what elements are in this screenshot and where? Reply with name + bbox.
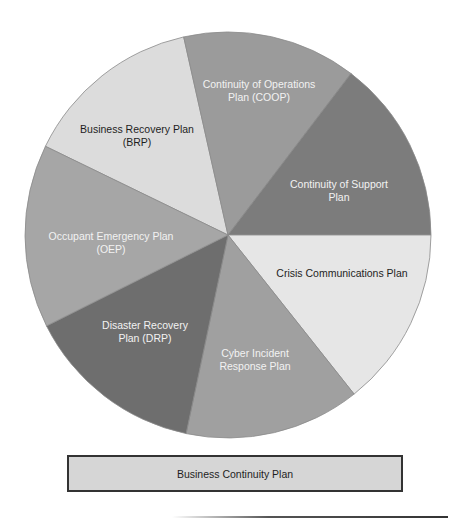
business-continuity-plan-box: Business Continuity Plan: [67, 455, 403, 492]
business-continuity-pie: Business Recovery Plan(BRP)Continuity of…: [0, 0, 451, 519]
slice-label-cyber: Cyber IncidentResponse Plan: [219, 347, 290, 372]
slice-label-crisis: Crisis Communications Plan: [276, 267, 407, 279]
business-continuity-plan-label: Business Continuity Plan: [177, 468, 293, 480]
bottom-divider: [172, 516, 448, 518]
